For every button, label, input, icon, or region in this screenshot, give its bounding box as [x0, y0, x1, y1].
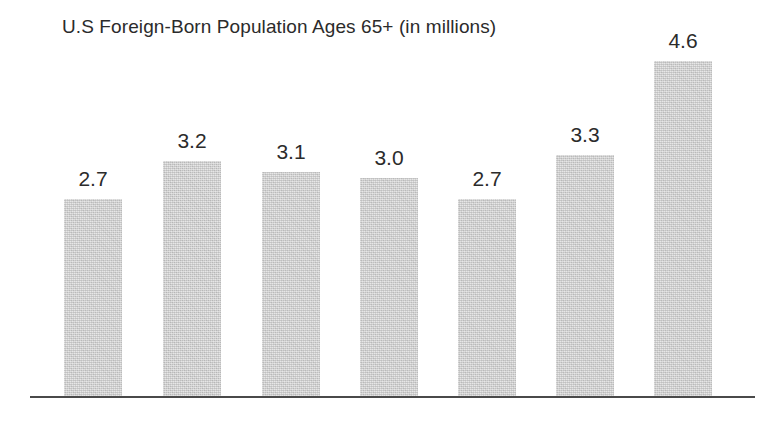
bar-value-label: 3.2	[151, 129, 233, 153]
plot-area: 2.7 1950 3.2 1960 3.1 1970 3.0 1980 2.7 …	[0, 0, 778, 448]
bar-value-label: 3.0	[348, 146, 430, 170]
bar-rect[interactable]	[556, 155, 614, 396]
bar-chart-figure: U.S Foreign-Born Population Ages 65+ (in…	[0, 0, 778, 448]
bar-rect[interactable]	[262, 172, 320, 396]
bar-rect[interactable]	[360, 178, 418, 396]
bar-rect[interactable]	[458, 199, 516, 396]
bar-value-label: 3.1	[250, 140, 332, 164]
bar-value-label: 2.7	[52, 167, 134, 191]
bar-value-label: 4.6	[642, 29, 724, 53]
x-axis-line	[30, 396, 755, 398]
bar-rect[interactable]	[64, 199, 122, 396]
bar-value-label: 2.7	[446, 167, 528, 191]
bar-rect[interactable]	[163, 161, 221, 396]
bar-value-label: 3.3	[544, 123, 626, 147]
bar-rect[interactable]	[654, 61, 712, 396]
